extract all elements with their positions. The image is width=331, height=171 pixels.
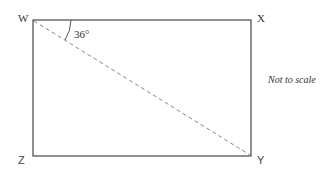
- diagonal-wy: [34, 21, 250, 155]
- rectangle-diagram: 36° W X Y Z Not to scale: [0, 0, 331, 171]
- vertex-label-x: X: [257, 12, 265, 24]
- angle-label: 36°: [74, 28, 89, 40]
- vertex-label-y: Y: [257, 154, 265, 166]
- angle-arc-w: [65, 20, 71, 40]
- vertex-label-w: W: [18, 12, 29, 24]
- vertex-label-z: Z: [18, 154, 25, 166]
- not-to-scale-note: Not to scale: [267, 74, 316, 85]
